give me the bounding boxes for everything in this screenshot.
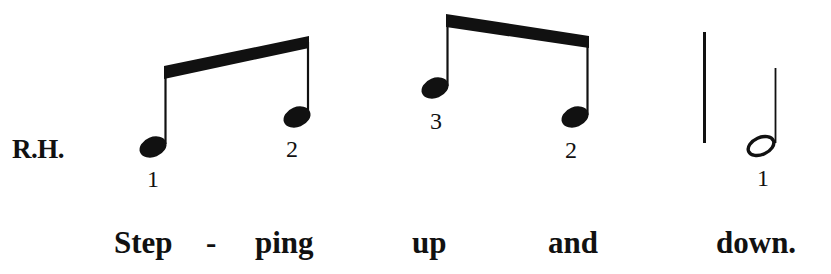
half-note-group — [745, 68, 777, 159]
lyric-down: down. — [716, 226, 796, 260]
fingering-note-4: 2 — [565, 138, 577, 162]
fingering-note-5: 1 — [757, 166, 769, 190]
beam-1 — [164, 36, 309, 79]
lyric-ping: ping — [255, 226, 314, 260]
fingering-note-2: 2 — [286, 137, 298, 161]
beam-2 — [446, 14, 589, 48]
fingering-note-3: 3 — [430, 109, 442, 133]
right-hand-label: R.H. — [12, 134, 64, 165]
beam-group-2 — [418, 14, 591, 132]
fingering-note-1: 1 — [147, 167, 159, 191]
lyric-and: and — [548, 226, 598, 260]
lyric-step: Step — [114, 226, 173, 260]
music-excerpt: R.H. 1 2 3 2 1 Step - ping up and down. — [0, 0, 831, 274]
lyric-hyphen: - — [206, 226, 216, 260]
lyric-up: up — [412, 226, 446, 260]
notehead-note-5 — [745, 133, 777, 160]
